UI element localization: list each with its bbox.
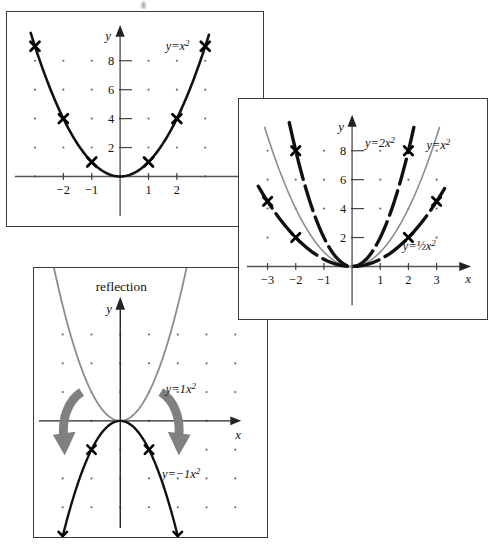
grid-dot: [176, 60, 178, 62]
x-tick-label: 1: [377, 273, 383, 287]
grid-dot: [62, 333, 64, 335]
grid-dot: [62, 391, 64, 393]
reflection-arrow-left: [53, 392, 82, 456]
grid-dot: [436, 236, 438, 238]
grid-dot: [34, 60, 36, 62]
grid-dot: [204, 146, 206, 148]
grid-dot: [90, 477, 92, 479]
grid-dot: [323, 150, 325, 152]
stretch-compression-panel: −3−2−1123 2468 x y y=2x2 y=x2 y=½x2: [238, 98, 488, 320]
y-tick-label: 8: [340, 144, 346, 158]
x-tick-label: −1: [317, 273, 330, 287]
grid-dot: [234, 449, 236, 451]
y-tick-label: 8: [108, 54, 114, 68]
reflection-arrow-right: [161, 392, 191, 456]
grid-dot: [266, 236, 268, 238]
grid-dot: [91, 146, 93, 148]
grid-dot: [379, 179, 381, 181]
grid-dot: [205, 362, 207, 364]
grid-dot: [407, 179, 409, 181]
grid-dot: [234, 506, 236, 508]
grid-dot: [323, 179, 325, 181]
grid-dot: [91, 60, 93, 62]
x-tick-label: −1: [85, 183, 98, 197]
grid-dot: [295, 179, 297, 181]
reflection-panel: reflection x y y=1x2 y=−1x2: [33, 267, 268, 538]
grid-dot: [34, 146, 36, 148]
grid-dot: [234, 477, 236, 479]
grid-dot: [147, 60, 149, 62]
x-tick-label: −2: [289, 273, 302, 287]
curve-label-y-equals-half-x-squared: y=½x2: [401, 238, 437, 253]
y-axis-label: y: [336, 120, 344, 134]
grid-dot: [234, 333, 236, 335]
grid-dot: [205, 477, 207, 479]
grid-dot: [90, 506, 92, 508]
grid-dot: [266, 208, 268, 210]
x-tick-label: 3: [434, 273, 440, 287]
x-axis-label: x: [464, 272, 471, 286]
grid-dot: [266, 150, 268, 152]
grid-dot: [176, 146, 178, 148]
grid-dot: [205, 391, 207, 393]
data-point-marker: [87, 445, 95, 453]
grid-dot: [436, 208, 438, 210]
y-tick-label: 2: [340, 231, 346, 245]
grid-dot: [204, 118, 206, 120]
y-axis-label: y: [104, 302, 112, 316]
grid-dot: [62, 362, 64, 364]
grid-dot: [205, 333, 207, 335]
x-tick-label: 1: [145, 183, 151, 197]
data-point-marker: [87, 158, 96, 167]
data-point-marker: [144, 158, 153, 167]
curve-label-y-equals-minus-1x-squared: y=−1x2: [160, 466, 201, 481]
data-point-marker: [292, 233, 300, 241]
grid-dot: [34, 89, 36, 91]
grid-dot: [148, 333, 150, 335]
grid-dot: [148, 477, 150, 479]
grid-dot: [204, 60, 206, 62]
y-tick-label: 4: [340, 202, 346, 216]
y-tick-label: 4: [108, 112, 114, 126]
grid-dot: [91, 89, 93, 91]
curve-label-y-equals-x-squared: y=x2: [424, 137, 450, 152]
curve-label-y-equals-x-squared: y=x2: [164, 38, 190, 53]
grid-dot: [436, 179, 438, 181]
x-tick-label: 2: [174, 183, 180, 197]
x-tick-label: −3: [261, 273, 274, 287]
grid-dot: [147, 118, 149, 120]
y-tick-label: 2: [108, 141, 114, 155]
grid-dot: [176, 89, 178, 91]
reflection-figure: reflection x y y=1x2 y=−1x2: [34, 268, 267, 537]
grid-dot: [205, 449, 207, 451]
curve-label-y-equals-2x-squared: y=2x2: [363, 135, 396, 150]
grid-dot: [205, 506, 207, 508]
grid-dot: [34, 118, 36, 120]
grid-dot: [177, 506, 179, 508]
scan-artifact-smudge: [140, 0, 147, 9]
y-tick-label: 6: [108, 83, 114, 97]
grid-dot: [62, 477, 64, 479]
grid-dot: [234, 362, 236, 364]
grid-dot: [266, 179, 268, 181]
y-axis-label: y: [103, 29, 111, 43]
grid-dot: [177, 362, 179, 364]
grid-dot: [90, 333, 92, 335]
panel-title: reflection: [96, 279, 148, 294]
grid-dot: [234, 391, 236, 393]
grid-dot: [62, 146, 64, 148]
grid-dot: [323, 208, 325, 210]
grid-dot: [147, 89, 149, 91]
basic-parabola-panel: −2−112 2468 x y y=x2: [6, 11, 264, 227]
grid-dot: [147, 146, 149, 148]
grid-dot: [148, 506, 150, 508]
data-point-marker: [172, 114, 181, 123]
grid-dot: [148, 362, 150, 364]
grid-dot: [379, 150, 381, 152]
y-tick-label: 6: [340, 173, 346, 187]
x-tick-label: 2: [405, 273, 411, 287]
curve-label-y-equals-1x-squared: y=1x2: [164, 381, 197, 396]
grid-dot: [204, 89, 206, 91]
grid-dot: [62, 506, 64, 508]
data-point-marker: [59, 114, 68, 123]
